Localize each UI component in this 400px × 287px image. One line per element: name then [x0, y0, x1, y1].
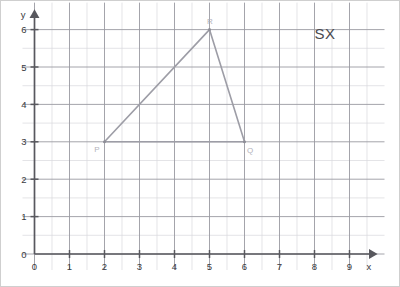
y-axis-tick-label: 4 — [21, 99, 26, 110]
annotations: SX — [314, 25, 335, 42]
x-axis-tick-label: 0 — [32, 261, 37, 272]
y-axis-tick-label: 3 — [21, 136, 26, 147]
vertex-label-r: R — [207, 17, 213, 26]
sx-note: SX — [314, 25, 335, 42]
figure-canvas: 01234567890123456 PQR SX yx — [0, 0, 400, 287]
axes — [35, 17, 371, 254]
x-axis-tick-label: 7 — [277, 261, 282, 272]
axis-names: yx — [21, 9, 372, 272]
vertex-label-q: Q — [247, 146, 253, 155]
major-gridlines — [23, 3, 385, 270]
x-axis-tick-label: 4 — [172, 261, 177, 272]
y-axis-tick-label: 1 — [21, 211, 26, 222]
vertex-label-p: P — [94, 145, 99, 154]
x-axis-tick-label: 8 — [312, 261, 317, 272]
x-axis-name: x — [366, 261, 371, 272]
minor-gridlines — [23, 3, 385, 270]
axis-ticks — [31, 30, 350, 258]
coordinate-grid-svg: 01234567890123456 PQR SX yx — [1, 1, 400, 287]
y-axis-name: y — [21, 9, 26, 20]
x-axis-tick-label: 9 — [347, 261, 352, 272]
axis-tick-labels: 01234567890123456 — [21, 24, 352, 272]
vertex-point-p — [103, 140, 106, 143]
x-axis-tick-label: 5 — [207, 261, 212, 272]
y-axis-tick-label: 0 — [21, 249, 26, 260]
vertex-point-q — [243, 140, 246, 143]
x-axis-tick-label: 3 — [137, 261, 142, 272]
vertex-point-r — [208, 28, 211, 31]
x-axis-tick-label: 1 — [67, 261, 72, 272]
y-axis-tick-label: 5 — [21, 62, 26, 73]
x-axis-tick-label: 6 — [242, 261, 247, 272]
x-axis-tick-label: 2 — [102, 261, 107, 272]
y-axis-tick-label: 6 — [21, 24, 26, 35]
y-axis-tick-label: 2 — [21, 174, 26, 185]
coordinate-plot: 01234567890123456 PQR SX yx — [1, 1, 400, 287]
